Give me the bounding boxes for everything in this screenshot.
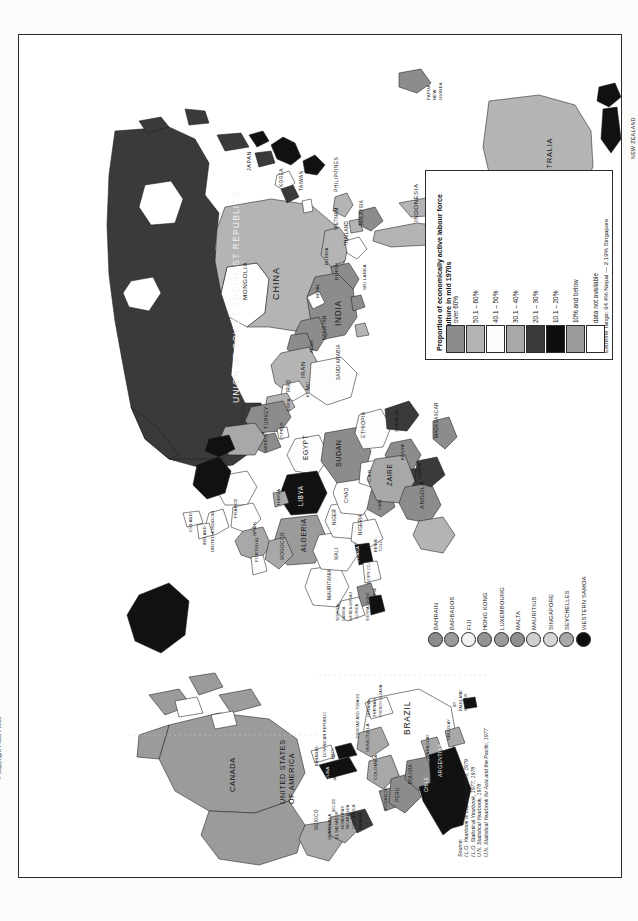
small-state-label: SINGAPORE — [548, 594, 554, 630]
small-state-entry: SEYCHELLES — [559, 555, 572, 647]
map-country-label: FRANCE — [233, 498, 238, 518]
map-country-label: NICARAGUA — [346, 805, 350, 829]
map-country-label: CHINA — [271, 267, 281, 300]
map-country-label: OF AMERICA — [287, 753, 296, 804]
small-state-swatch — [494, 632, 509, 647]
map-country-label: MONGOLIA — [241, 262, 248, 300]
page-frame: Workers on the land .s0{fill:#8c8c8c} /*… — [18, 34, 622, 878]
map-country-label: ANGOLA — [419, 481, 425, 509]
small-state-swatch — [461, 632, 476, 647]
map-page: © Copyright Pluto Press Workers on the l… — [0, 0, 638, 921]
map-country-label: CAM. — [377, 498, 382, 510]
map-country-label: INDONESIA — [412, 183, 419, 222]
map-country-label: CHAD — [343, 487, 349, 503]
map-country-label: GUINEA — [438, 82, 443, 100]
legend-item: 20.1 – 30% — [526, 177, 543, 353]
map-country-label: ALGERIA — [300, 518, 307, 552]
map-country-label: CHILE — [424, 777, 429, 792]
source-note: Source: I.L.O. Yearbook of Labour Statis… — [457, 727, 489, 857]
map-country-label: AFGH — [309, 340, 314, 353]
small-state-label: WESTERN SAMOA — [581, 576, 587, 630]
map-country-label: ARGENTINA — [437, 743, 443, 777]
map-country-label: IRAN — [299, 361, 306, 378]
map-country-label: PERU — [395, 787, 400, 802]
map-country-label: BRAZIL — [402, 701, 412, 735]
map-country-label: VIETNAM — [334, 207, 339, 230]
map-country-label: EL SALVADOR — [335, 811, 339, 839]
map-country-label: JAPAN — [246, 151, 252, 171]
small-state-label: FIJI — [466, 620, 472, 630]
legend-label: 40.1 – 50% — [492, 291, 499, 323]
small-state-swatch — [428, 632, 443, 647]
map-country-label: MOROCCO — [280, 532, 285, 560]
map-country-label: GUINEA — [355, 604, 359, 619]
legend-swatch — [526, 325, 545, 353]
map-country-label: MADAGASCAR — [434, 402, 439, 438]
map-country-label: THAILAND — [344, 221, 349, 246]
small-state-entry: FIJI — [461, 555, 474, 647]
map-country-label: GUATEMALA — [327, 814, 332, 840]
map-country-label: PAPUA — [426, 85, 431, 100]
legend-label: 30.1 – 40% — [512, 291, 519, 323]
map-country-label: SURINAM — [373, 698, 377, 717]
map-country-label: ECUADOR — [383, 787, 388, 810]
map-country-label: PANAMA — [359, 812, 363, 829]
map-country-label: TOGO — [379, 540, 383, 552]
legend-swatch — [566, 325, 585, 353]
map-country-label: FALKLAND — [459, 690, 463, 711]
map-country-label: MALAYSIA — [359, 200, 364, 225]
map-country-label: NIGER — [332, 509, 337, 525]
map-country-label: KUWAIT — [306, 381, 310, 397]
map-country-label: LIBYA — [297, 485, 304, 506]
small-states-key: BAHRAINBARBADOSFIJIHONG KONGLUXEMBOURGMA… — [428, 555, 589, 647]
map-country-label: VENEZUELA — [365, 723, 370, 752]
map-country-label: GAMBIA — [342, 607, 346, 621]
legend-label: over 60% — [452, 296, 459, 323]
small-state-label: BAHRAIN — [433, 603, 439, 630]
small-state-label: LUXEMBOURG — [499, 587, 505, 630]
small-state-swatch — [510, 632, 525, 647]
small-state-label: HONG KONG — [482, 592, 488, 630]
map-country-label: CYPRUS — [279, 422, 284, 440]
map-country-label: PARAGUAY — [425, 734, 430, 757]
small-state-entry: SINGAPORE — [543, 555, 556, 647]
map-country-label: HONDURAS — [341, 806, 345, 829]
map-country-label: IVORY CO. — [367, 563, 371, 584]
small-state-label: MALTA — [515, 611, 521, 630]
map-country-label: UNITED STATES — [278, 739, 287, 804]
map-country-label: BAHAMAS — [315, 746, 319, 766]
map-country-label: KENYA — [400, 444, 405, 460]
map-country-label: BOLIVIA — [408, 764, 413, 784]
map-country-label: ISLANDS — [464, 693, 468, 711]
map-country-label: DOMINICAN REPUBLIC — [323, 712, 327, 757]
map-country-label: NIGERIA — [358, 514, 363, 535]
map-country-label: SAUDI ARABIA — [336, 344, 341, 380]
legend-label: 20.1 – 30% — [532, 291, 539, 323]
legend-items: over 60%50.1 – 60%40.1 – 50%30.1 – 40%20… — [446, 177, 603, 353]
small-state-entry: MALTA — [510, 555, 523, 647]
map-country-label: BENIN — [374, 539, 378, 552]
small-state-entry: WESTERN SAMOA — [576, 555, 589, 647]
map-country-label: C.A.R. — [367, 468, 372, 482]
map-country-label: IRAQ — [286, 380, 291, 392]
map-country-label: MALI — [334, 548, 339, 560]
map-country-label: GREECE — [263, 433, 268, 452]
map-country-label: BELIZE — [332, 798, 336, 812]
small-state-label: SEYCHELLES — [564, 590, 570, 630]
map-country-label: SENEGAL — [336, 603, 340, 621]
map-country-label: IRELAND — [202, 526, 207, 545]
legend-item: over 60% — [446, 177, 463, 353]
map-country-label: GUINEA-BISSAU — [349, 592, 353, 621]
map-country-label: PORTUGAL — [254, 537, 259, 562]
map-country-label: PHILIPPINES — [333, 157, 339, 192]
map-country-label: URUGUAY — [446, 719, 451, 740]
map-country-label: NEPAL — [315, 284, 320, 298]
map-country-label: CUBA — [325, 767, 330, 780]
legend-item: 10.1 – 20% — [546, 177, 563, 353]
small-state-entry: BAHRAIN — [428, 555, 441, 647]
legend-label: 10.1 – 20% — [552, 291, 559, 323]
map-country-label: TUNISIA — [276, 489, 281, 506]
small-state-swatch — [444, 632, 459, 647]
legend-item: 30.1 – 40% — [506, 177, 523, 353]
map-country-label: TRINIDAD AND TOBAGO — [356, 694, 360, 739]
